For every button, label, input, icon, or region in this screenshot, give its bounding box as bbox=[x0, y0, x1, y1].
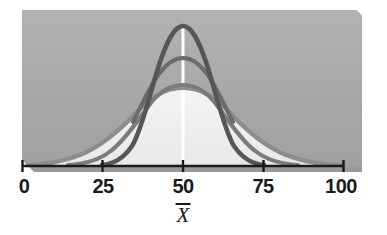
x-axis-label-25: 25 bbox=[92, 176, 113, 196]
x-axis-title: X bbox=[177, 203, 190, 226]
x-axis-label-100: 100 bbox=[325, 176, 357, 196]
panel-content bbox=[22, 10, 362, 166]
x-axis-label-0: 0 bbox=[19, 176, 30, 196]
x-bar-glyph: X bbox=[177, 203, 190, 226]
overbar bbox=[176, 203, 191, 205]
x-axis-label-50: 50 bbox=[172, 176, 193, 196]
x-axis-label-75: 75 bbox=[252, 176, 273, 196]
center-reference-line bbox=[182, 24, 185, 166]
distribution-plot bbox=[0, 0, 387, 235]
distribution-figure: 0 25 50 75 100 X bbox=[0, 0, 387, 235]
